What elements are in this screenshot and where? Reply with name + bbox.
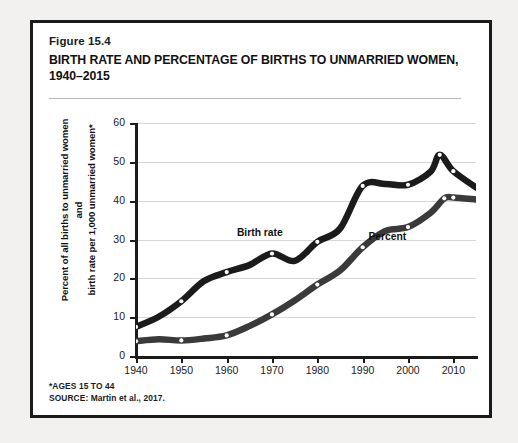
x-tick-label: 1970 bbox=[252, 364, 292, 376]
x-tick-mark bbox=[363, 358, 365, 363]
x-tick-mark bbox=[227, 358, 229, 363]
data-point-marker bbox=[438, 153, 442, 157]
line-chart-svg bbox=[136, 123, 476, 356]
data-point-marker bbox=[179, 299, 183, 303]
data-point-marker bbox=[225, 270, 229, 274]
title-divider bbox=[49, 98, 461, 99]
series-line-percent bbox=[136, 197, 476, 341]
data-point-marker bbox=[179, 338, 183, 342]
y-tick-label: 10 bbox=[99, 310, 125, 322]
x-tick-label: 1950 bbox=[161, 364, 201, 376]
y-tick-label: 60 bbox=[99, 116, 125, 128]
footnote-source: SOURCE: Martin et al., 2017. bbox=[49, 393, 165, 403]
data-point-marker bbox=[225, 333, 229, 337]
x-tick-mark bbox=[272, 358, 274, 363]
figure-title: BIRTH RATE AND PERCENTAGE OF BIRTHS TO U… bbox=[49, 52, 469, 84]
series-canvas bbox=[136, 123, 476, 356]
series-label-birth-rate: Birth rate bbox=[237, 227, 283, 238]
y-tick-label: 20 bbox=[99, 271, 125, 283]
x-tick-mark bbox=[136, 358, 138, 363]
data-point-marker bbox=[451, 195, 455, 199]
data-point-marker bbox=[361, 184, 365, 188]
figure-container: Figure 15.4 BIRTH RATE AND PERCENTAGE OF… bbox=[30, 20, 492, 418]
figure-number: Figure 15.4 bbox=[49, 35, 111, 47]
y-tick-label: 50 bbox=[99, 155, 125, 167]
y-axis-title: Percent of all births to unmarried women… bbox=[58, 115, 92, 305]
x-tick-mark bbox=[453, 358, 455, 363]
data-point-marker bbox=[442, 196, 446, 200]
x-tick-mark bbox=[408, 358, 410, 363]
y-axis-title-line-2: birth rate per 1,000 unmarried women* bbox=[85, 115, 99, 305]
data-point-marker bbox=[270, 312, 274, 316]
x-tick-label: 2000 bbox=[388, 364, 428, 376]
x-tick-label: 2010 bbox=[433, 364, 473, 376]
series-label-percent: Percent bbox=[368, 231, 406, 242]
y-tick-label: 30 bbox=[99, 233, 125, 245]
x-axis-line bbox=[135, 356, 478, 359]
y-axis-title-line-1: Percent of all births to unmarried women… bbox=[58, 115, 85, 305]
x-tick-label: 1980 bbox=[297, 364, 337, 376]
data-point-marker bbox=[315, 240, 319, 244]
chart-plot-region: Percent of all births to unmarried women… bbox=[33, 101, 489, 383]
data-point-marker bbox=[270, 251, 274, 255]
x-tick-label: 1990 bbox=[343, 364, 383, 376]
x-tick-mark bbox=[181, 358, 183, 363]
figure-inner: Figure 15.4 BIRTH RATE AND PERCENTAGE OF… bbox=[33, 23, 489, 415]
y-tick-label: 40 bbox=[99, 194, 125, 206]
data-point-marker bbox=[406, 183, 410, 187]
x-tick-label: 1960 bbox=[207, 364, 247, 376]
y-tick-label: 0 bbox=[99, 349, 125, 361]
x-tick-label: 1940 bbox=[116, 364, 156, 376]
x-tick-mark bbox=[317, 358, 319, 363]
series-line-birth-rate bbox=[136, 155, 476, 327]
data-point-marker bbox=[451, 169, 455, 173]
data-point-marker bbox=[361, 245, 365, 249]
footnote-ages: *AGES 15 TO 44 bbox=[49, 381, 114, 391]
data-point-marker bbox=[315, 282, 319, 286]
data-point-marker bbox=[406, 225, 410, 229]
